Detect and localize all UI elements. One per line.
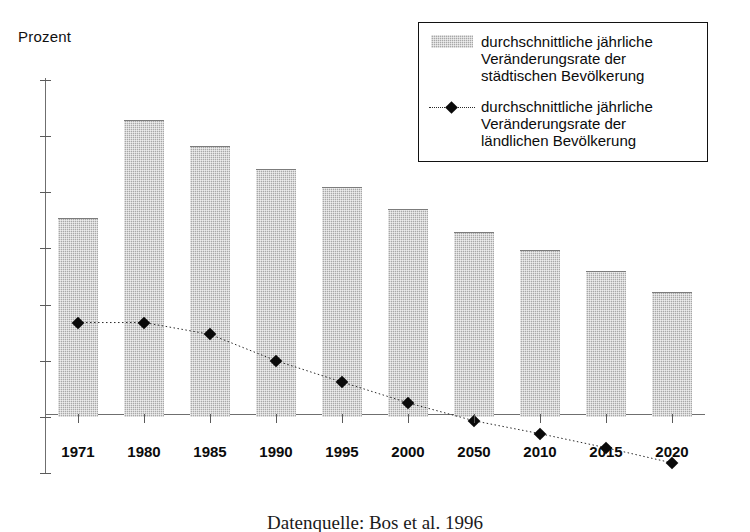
x-axis-tick-label: 1990 — [240, 443, 312, 460]
legend-entry-urban: durchschnittliche jährliche Veränderungs… — [419, 29, 707, 88]
bar — [58, 218, 99, 417]
bar — [586, 271, 627, 417]
bar — [388, 209, 429, 417]
x-axis-tick-label: 2010 — [504, 443, 576, 460]
bar — [322, 187, 363, 417]
x-axis-tick — [408, 414, 409, 423]
y-axis-tick — [40, 473, 51, 474]
y-axis-unit-label: Prozent — [18, 28, 71, 45]
x-axis-tick — [342, 414, 343, 423]
x-axis-tick-label: 2050 — [438, 443, 510, 460]
x-axis-tick — [474, 414, 475, 423]
legend-label-rural: durchschnittliche jährliche Veränderungs… — [481, 98, 653, 149]
bar — [652, 292, 693, 417]
legend-label-urban: durchschnittliche jährliche Veränderungs… — [481, 33, 653, 84]
bar-swatch-icon — [431, 35, 473, 48]
x-axis-tick-label: 1971 — [42, 443, 114, 460]
bar — [256, 169, 297, 417]
x-axis-tick-label: 1980 — [108, 443, 180, 460]
x-axis-tick — [672, 414, 673, 423]
diamond-marker-icon — [445, 101, 458, 114]
x-axis-tick — [210, 414, 211, 423]
x-axis-tick-label: 2020 — [636, 443, 708, 460]
legend-key-rural — [425, 98, 481, 144]
x-axis-tick — [144, 414, 145, 423]
y-axis-tick — [40, 80, 51, 81]
x-axis-tick — [276, 414, 277, 423]
legend-key-urban — [425, 33, 481, 79]
x-axis-tick-label: 1985 — [174, 443, 246, 460]
bar — [454, 232, 495, 417]
y-axis-tick — [40, 248, 51, 249]
legend-entry-rural: durchschnittliche jährliche Veränderungs… — [419, 94, 707, 153]
x-axis-tick-label: 2015 — [570, 443, 642, 460]
y-axis-tick — [40, 361, 51, 362]
x-axis-tick-label: 1995 — [306, 443, 378, 460]
chart-legend: durchschnittliche jährliche Veränderungs… — [418, 22, 708, 162]
bar — [124, 120, 165, 416]
x-axis-tick — [540, 414, 541, 423]
line-marker — [534, 427, 547, 440]
y-axis-tick — [40, 192, 51, 193]
bar — [520, 250, 561, 417]
y-axis-tick — [40, 305, 51, 306]
chart-figure: Prozent 6543210-119711980198519901995200… — [0, 0, 750, 532]
y-axis-tick — [40, 417, 51, 418]
y-axis-tick — [40, 136, 51, 137]
x-axis-tick — [606, 414, 607, 423]
source-caption: Datenquelle: Bos et al. 1996 — [0, 512, 750, 532]
bar — [190, 146, 231, 417]
x-axis-tick-label: 2000 — [372, 443, 444, 460]
x-axis-tick — [78, 414, 79, 423]
